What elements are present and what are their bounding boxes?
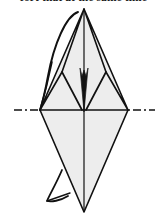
origami-fold-diagram	[0, 0, 167, 216]
figure-root: fort that at the same time	[0, 0, 167, 216]
